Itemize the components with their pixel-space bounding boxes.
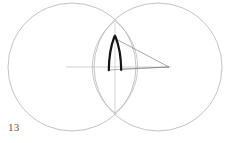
geometric-construction-figure	[0, 0, 232, 143]
figure-number-label: 13	[8, 121, 20, 133]
heavy-arc-apex	[114, 35, 115, 37]
figure-container: 13	[0, 0, 232, 143]
